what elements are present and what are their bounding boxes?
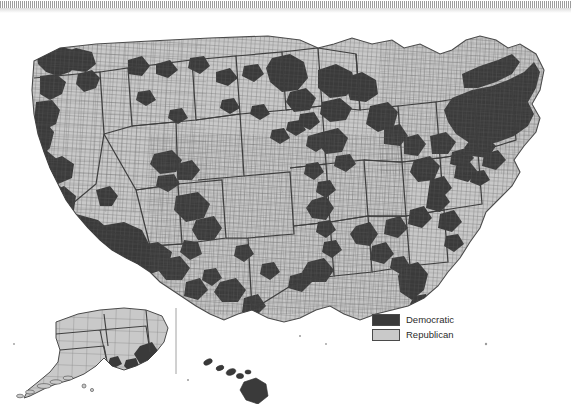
legend-label-democratic: Democratic (406, 314, 454, 326)
lower-48-states[interactable] (26, 32, 550, 328)
lower-48-interior (26, 32, 550, 328)
map-legend: Democratic Republican (372, 314, 464, 341)
alaska-inset[interactable] (17, 306, 177, 402)
legend-label-republican: Republican (406, 329, 454, 341)
legend-item-democratic[interactable]: Democratic (372, 314, 464, 326)
legend-swatch-republican (372, 329, 400, 341)
legend-item-republican[interactable]: Republican (372, 329, 464, 341)
map-page: Democratic Republican (0, 0, 571, 404)
legend-swatch-democratic (372, 314, 400, 326)
us-county-map-svg[interactable] (0, 14, 571, 404)
election-map[interactable] (0, 14, 571, 404)
figure-caption (62, 396, 482, 404)
top-rule-shadow (0, 8, 571, 13)
